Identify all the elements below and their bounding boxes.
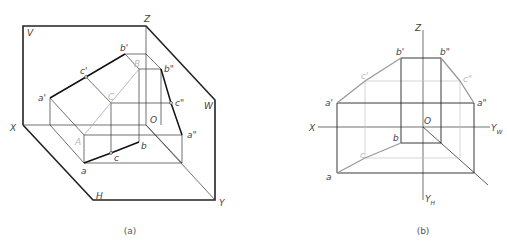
label-b-prime: b' xyxy=(120,43,128,53)
point-c-dprime xyxy=(170,102,173,105)
label-O-b: O xyxy=(424,116,431,126)
label-O: O xyxy=(150,115,157,125)
label-a-prime: a' xyxy=(38,93,46,103)
label-b-b: b xyxy=(393,133,399,143)
label-YH: YH xyxy=(425,194,436,206)
figure-b: Z X O YW YH a' c' b' b" c" a" b c a (b) xyxy=(308,23,504,236)
label-V: V xyxy=(27,28,34,38)
label-c-b: c xyxy=(360,150,365,160)
label-a-dprime-b: a" xyxy=(477,98,487,108)
label-b-dprime: b" xyxy=(164,64,174,74)
result-lines-b xyxy=(337,58,474,173)
projection-lines-b xyxy=(337,58,474,173)
label-a-dprime: a" xyxy=(187,130,197,140)
label-A: A xyxy=(74,137,81,147)
label-c: c xyxy=(114,153,119,163)
label-C: C xyxy=(108,92,115,102)
label-W: W xyxy=(204,101,214,111)
c-construction-lines xyxy=(365,81,460,158)
label-B: B xyxy=(134,59,140,69)
point-c xyxy=(110,152,113,155)
label-c-dprime-b: c" xyxy=(463,74,472,84)
label-c-prime-b: c' xyxy=(361,71,368,81)
caption-b: (b) xyxy=(417,226,430,236)
label-YW: YW xyxy=(491,123,504,135)
label-c-prime: c' xyxy=(80,66,87,76)
point-c-prime xyxy=(85,76,88,79)
label-c-dprime: c" xyxy=(175,98,184,108)
label-a-prime-b: a' xyxy=(325,98,333,108)
label-a: a xyxy=(81,166,87,176)
label-H: H xyxy=(96,191,103,201)
label-b-dprime-b: b" xyxy=(440,47,450,57)
projection-lines xyxy=(50,54,182,163)
label-X-b: X xyxy=(308,123,316,133)
label-Y: Y xyxy=(219,198,226,208)
label-Z: Z xyxy=(143,14,151,24)
label-Z-b: Z xyxy=(414,23,422,33)
caption-a: (a) xyxy=(124,226,137,236)
label-X: X xyxy=(9,123,17,133)
label-a-b: a xyxy=(326,172,332,182)
figure-a: V Z X O W H Y a' c' b' B C A b" c" a" b … xyxy=(9,14,226,236)
label-b-prime-b: b' xyxy=(396,47,404,57)
diagonal-45 xyxy=(423,127,488,185)
label-b: b xyxy=(141,141,147,151)
v-plane-frame xyxy=(23,26,215,200)
projection-diagram: V Z X O W H Y a' c' b' B C A b" c" a" b … xyxy=(0,0,507,243)
